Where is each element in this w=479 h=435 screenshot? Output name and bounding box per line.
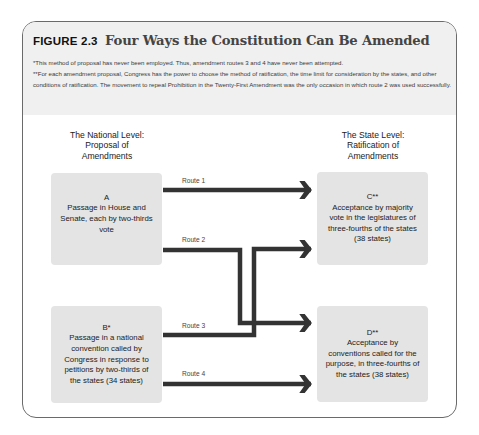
route-3-label: Route 3 — [182, 322, 205, 329]
box-c-state-legislatures: C** Acceptance by majority vote in the l… — [317, 172, 428, 265]
box-d-text: Acceptance by conventions called for the… — [326, 338, 420, 380]
box-b-id: B* — [102, 323, 110, 334]
box-b-national-convention: B* Passage in a national convention call… — [51, 306, 162, 403]
route-2-arrow — [163, 250, 311, 323]
box-c-text: Acceptance by majority vote in the legis… — [327, 203, 419, 245]
box-b-text: Passage in a national convention called … — [59, 333, 155, 386]
box-d-state-conventions: D** Acceptance by conventions called for… — [317, 306, 428, 402]
box-a-text: Passage in House and Senate, each by two… — [59, 203, 155, 235]
route-1-label: Route 1 — [182, 177, 205, 184]
box-a-congress-passage: A Passage in House and Senate, each by t… — [51, 173, 162, 265]
box-c-id: C** — [367, 192, 379, 203]
box-d-id: D** — [367, 328, 379, 339]
route-4-label: Route 4 — [182, 370, 205, 377]
route-2-label: Route 2 — [182, 236, 205, 243]
box-a-id: A — [104, 193, 109, 204]
